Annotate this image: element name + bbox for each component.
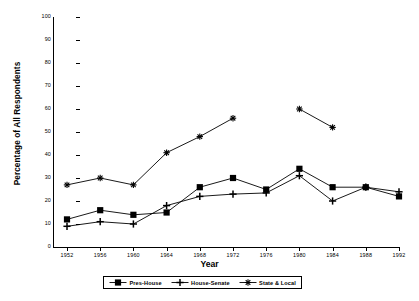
x-axis-tick-mark bbox=[200, 247, 201, 251]
legend-item-2[interactable]: State & Local bbox=[239, 279, 296, 286]
x-axis-tick-mark bbox=[167, 247, 168, 251]
x-axis-tick-mark bbox=[366, 247, 367, 251]
chart-container: 0102030405060708090100 19521956196019641… bbox=[0, 0, 419, 301]
x-axis-ticks: 1952195619601964196819721976198019841988… bbox=[0, 0, 419, 301]
filled-square-marker-icon bbox=[109, 279, 127, 286]
x-axis-tick-mark bbox=[233, 247, 234, 251]
x-axis-tick-mark bbox=[67, 247, 68, 251]
x-axis-tick-mark bbox=[133, 247, 134, 251]
x-axis-tick-mark bbox=[399, 247, 400, 251]
legend-item-1[interactable]: House-Senate bbox=[171, 279, 230, 286]
chart-legend: Pres-HouseHouse-SenateState & Local bbox=[103, 276, 302, 289]
x-axis-tick-mark bbox=[333, 247, 334, 251]
x-axis-tick-mark bbox=[266, 247, 267, 251]
legend-label-2: State & Local bbox=[259, 280, 296, 286]
x-axis-tick-mark bbox=[299, 247, 300, 251]
x-axis-tick-mark bbox=[100, 247, 101, 251]
legend-item-0[interactable]: Pres-House bbox=[109, 279, 162, 286]
filled-square-marker-icon bbox=[115, 279, 121, 285]
asterisk-marker-icon bbox=[239, 279, 257, 286]
x-axis-title: Year bbox=[0, 259, 419, 269]
plus-marker-icon bbox=[176, 279, 183, 286]
legend-label-0: Pres-House bbox=[130, 280, 162, 286]
x-axis-tick-label: 1992 bbox=[379, 252, 419, 258]
y-axis-title: Percentage of All Respondents bbox=[13, 44, 22, 204]
legend-label-1: House-Senate bbox=[191, 280, 230, 286]
plus-marker-icon bbox=[171, 279, 189, 286]
asterisk-marker-icon bbox=[244, 279, 250, 285]
